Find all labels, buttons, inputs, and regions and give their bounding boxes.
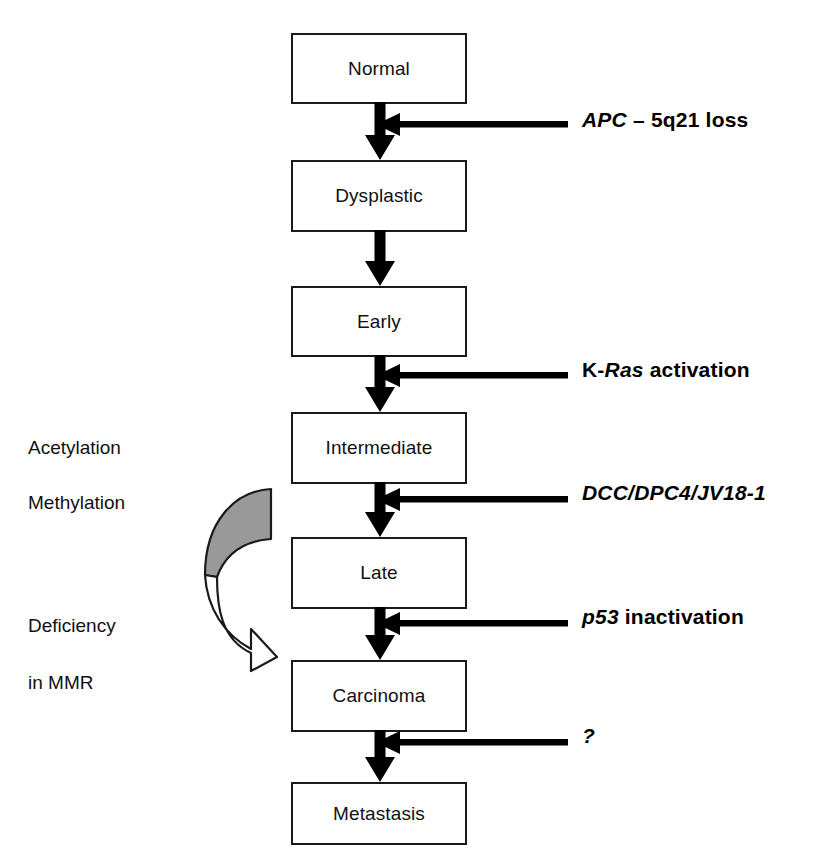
stage-box-carcinoma[interactable]: Carcinoma [291,660,467,732]
event-arrow-unknown [376,730,568,756]
epigenetic-note-deficiency: Deficiency [28,615,116,637]
gene-name-apc: APC [582,108,627,131]
progression-arrow-intermediate-to-late [362,482,398,539]
gene-suffix-kras: activation [644,358,750,381]
stage-box-early[interactable]: Early [291,286,467,357]
progression-arrow-normal-to-dysplastic [362,102,398,162]
event-arrow-apc [376,112,568,138]
stage-box-late[interactable]: Late [291,537,467,609]
gene-name-unknown: ? [582,724,595,747]
stage-box-normal[interactable]: Normal [291,33,467,104]
epigenetic-note-in-mmr: in MMR [28,672,93,694]
event-arrow-dcc [376,487,568,513]
curved-arrow-gray-segment [205,489,271,577]
stage-box-dysplastic[interactable]: Dysplastic [291,160,467,232]
stage-label-intermediate: Intermediate [326,437,433,459]
stage-label-normal: Normal [348,58,410,80]
stage-label-dysplastic: Dysplastic [335,185,423,207]
gene-suffix-apc: – 5q21 loss [627,108,748,131]
progression-arrow-early-to-intermediate [362,355,398,414]
stage-box-metastasis[interactable]: Metastasis [291,782,467,845]
stage-label-carcinoma: Carcinoma [333,685,426,707]
event-arrow-kras [376,363,568,389]
diagram-canvas: Normal Dysplastic Early Intermediate Lat… [0,0,820,854]
genetic-event-label-unknown: ? [582,724,595,748]
stage-label-metastasis: Metastasis [333,803,425,825]
gene-name-kras: Ras [605,358,644,381]
gene-suffix-p53: inactivation [619,605,744,628]
genetic-event-label-p53: p53 inactivation [582,605,744,629]
stage-box-intermediate[interactable]: Intermediate [291,412,467,484]
stage-label-early: Early [357,311,401,333]
gene-name-p53: p53 [582,605,619,628]
progression-arrow-dysplastic-to-early [362,230,398,288]
event-arrow-p53 [376,611,568,637]
curved-arrow-white-segment [205,575,277,671]
epigenetic-note-methylation: Methylation [28,492,125,514]
progression-arrow-late-to-carcinoma [362,607,398,662]
stage-label-late: Late [360,562,397,584]
gene-name-dcc: DCC/DPC4/JV18-1 [582,481,766,504]
epigenetic-note-acetylation: Acetylation [28,437,121,459]
progression-arrow-carcinoma-to-metastasis [362,730,398,784]
epigenetic-curved-arrow [195,483,290,673]
genetic-event-label-kras: K-Ras activation [582,358,750,382]
gene-prefix-kras: K- [582,358,605,381]
genetic-event-label-apc: APC – 5q21 loss [582,108,748,132]
genetic-event-label-dcc: DCC/DPC4/JV18-1 [582,481,766,505]
